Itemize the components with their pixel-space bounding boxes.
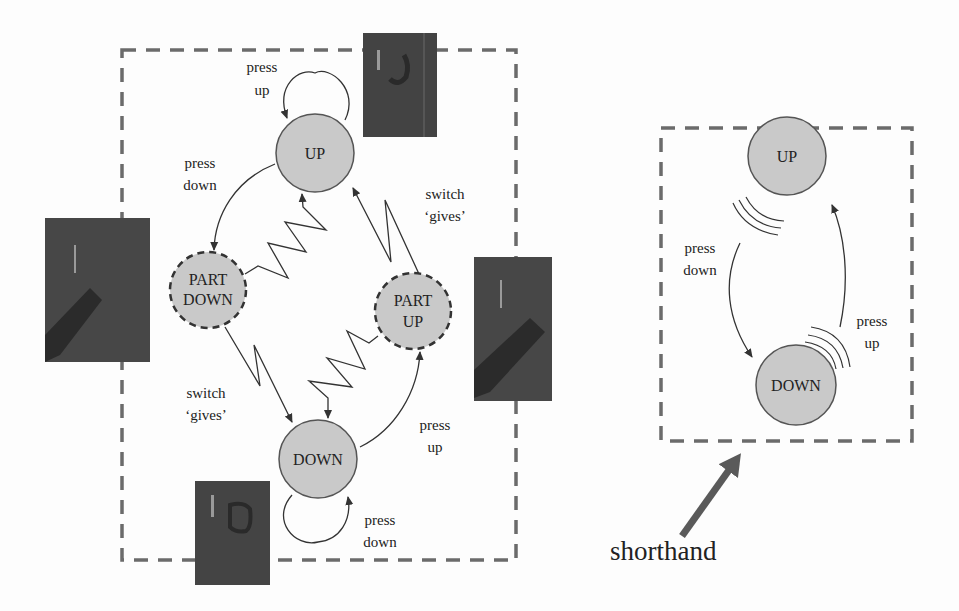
label-partdown-to-down: ‘gives’ [185,407,227,423]
switch-down-photo [195,481,270,585]
switch-up-photo [363,33,437,137]
node-part-up: PART UP [375,273,451,349]
svg-text:DOWN: DOWN [183,291,233,308]
label-down-self: press [365,512,396,528]
shorthand-state-diagram: UP DOWN press down press up [661,117,912,441]
up-self-loop-arrow [284,71,349,120]
partdown-to-up-zigzag-arrow [245,194,326,278]
label-partdown-to-down: switch [186,385,226,401]
label-down-to-partup: up [428,439,443,455]
shorthand-caption: shorthand [610,536,717,566]
shorthand-label-press-down: down [683,262,717,278]
partdown-to-down-zigzag-arrow [225,327,292,422]
node-part-down: PART DOWN [170,252,246,328]
shorthand-pointer-arrow [682,463,734,536]
svg-text:UP: UP [403,313,424,330]
shorthand-label-press-up: press [857,313,888,329]
svg-text:UP: UP [305,145,326,162]
svg-text:UP: UP [777,148,798,165]
label-partup-to-up: ‘gives’ [424,208,466,224]
node-up: UP [276,114,354,192]
switch-part-up-photo [474,257,552,401]
up-to-partdown-arrow [214,164,275,250]
node-down: DOWN [279,420,357,498]
label-up-to-partdown: down [183,177,217,193]
full-state-diagram: UP PART DOWN PART UP DOWN press up press… [45,33,552,585]
down-self-loop-arrow [283,495,348,543]
svg-text:PART: PART [394,292,433,309]
down-to-partup-arrow [360,352,420,447]
label-up-self: press [247,59,278,75]
up-vibration-arcs-icon [733,197,784,235]
shorthand-node-down: DOWN [756,345,836,425]
svg-text:DOWN: DOWN [771,377,821,394]
shorthand-press-down-arrow [729,243,752,357]
label-up-to-partdown: press [185,155,216,171]
switch-part-down-photo [45,218,150,362]
shorthand-press-up-arrow [832,205,845,327]
partup-to-down-zigzag-arrow [309,331,378,418]
partup-to-up-zigzag-arrow [353,188,419,274]
shorthand-label-press-up: up [865,335,880,351]
label-down-to-partup: press [420,417,451,433]
state-diagram-canvas: UP PART DOWN PART UP DOWN press up press… [0,0,959,611]
label-down-self: down [363,534,397,550]
shorthand-node-up: UP [748,117,826,195]
svg-text:PART: PART [189,271,228,288]
label-up-self: up [255,82,270,98]
label-partup-to-up: switch [425,186,465,202]
shorthand-label-press-down: press [685,240,716,256]
svg-text:DOWN: DOWN [293,451,343,468]
